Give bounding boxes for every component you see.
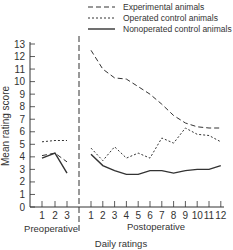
nonoperated-control-animals-postop-line (91, 154, 221, 174)
postop-tick-label: 4 (124, 210, 130, 221)
operated-control-animals-preop-line (42, 141, 67, 142)
legend-label: Nonoperated control animals (123, 24, 232, 34)
y-tick-label: 1 (19, 189, 25, 200)
postop-tick-label: 12 (215, 210, 227, 221)
postop-tick-label: 11 (204, 210, 215, 221)
postop-tick-label: 3 (112, 210, 118, 221)
postop-tick-label: 5 (135, 210, 141, 221)
chart-svg: Experimental animalsOperated control ani… (0, 0, 233, 250)
postop-tick-label: 9 (183, 210, 189, 221)
y-tick-label: 3 (19, 164, 25, 175)
postop-tick-label: 6 (147, 210, 153, 221)
experimental-animals-postop-line (91, 50, 221, 128)
series-lines (42, 50, 221, 174)
legend: Experimental animalsOperated control ani… (88, 2, 232, 34)
legend-label: Experimental animals (123, 2, 204, 12)
postop-tick-label: 8 (171, 210, 177, 221)
y-tick-label: 5 (19, 139, 25, 150)
legend-label: Operated control animals (123, 13, 218, 23)
y-tick-label: 0 (19, 202, 25, 213)
experimental-animals-preop-line (42, 153, 67, 162)
postop-tick-label: 10 (192, 210, 204, 221)
nonoperated-control-animals-preop-line (42, 153, 67, 173)
y-axis-label: Mean rating score (0, 86, 11, 166)
y-tick-label: 12 (14, 51, 26, 62)
y-tick-label: 7 (19, 114, 25, 125)
y-tick-label: 6 (19, 126, 25, 137)
x-axis-label: Daily ratings (95, 238, 148, 249)
postop-tick-label: 2 (100, 210, 106, 221)
preoperative-group-label: Preoperative (24, 223, 78, 234)
axes: 012345678910111213123123456789101112 (14, 36, 227, 232)
y-tick-label: 2 (19, 176, 25, 187)
postop-tick-label: 1 (88, 210, 94, 221)
y-tick-label: 13 (14, 39, 26, 50)
y-tick-label: 10 (14, 76, 26, 87)
operated-control-animals-postop-line (91, 128, 221, 161)
postop-tick-label: 7 (159, 210, 165, 221)
y-tick-label: 11 (15, 64, 26, 75)
line-chart: Experimental animalsOperated control ani… (0, 0, 233, 250)
preop-tick-label: 2 (52, 210, 58, 221)
y-tick-label: 8 (19, 101, 25, 112)
y-tick-label: 9 (19, 89, 25, 100)
postoperative-group-label: Postoperative (127, 221, 185, 232)
preop-tick-label: 3 (64, 210, 70, 221)
preop-tick-label: 1 (39, 210, 45, 221)
y-tick-label: 4 (19, 151, 25, 162)
